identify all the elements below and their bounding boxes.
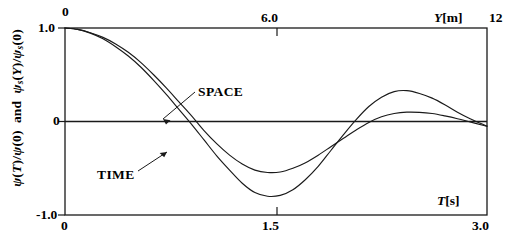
y-axis-label-text: ψ(T)/ψ(0) and ψs(Y)/ψs(0) xyxy=(9,29,25,187)
series-annotation-time: TIME xyxy=(97,167,135,183)
bottom-axis-tick-0: 0 xyxy=(61,218,68,234)
top-axis-tick-6: 6.0 xyxy=(261,10,278,26)
top-axis-tick-12: 12 xyxy=(489,10,503,26)
top-axis-tick-0: 0 xyxy=(62,4,69,20)
series-annotation-space: SPACE xyxy=(198,84,243,100)
curve-space xyxy=(65,28,487,173)
y-tick-label-minus1: -1.0 xyxy=(36,207,57,223)
y-tick-label-0: 0 xyxy=(53,113,60,129)
y-axis-label: ψ(T)/ψ(0) and ψs(Y)/ψs(0) xyxy=(5,0,29,218)
top-axis-name: Y[m] xyxy=(434,10,463,26)
y-tick-label-1: 1.0 xyxy=(38,20,55,36)
bottom-axis-tick-3p0: 3.0 xyxy=(472,218,489,234)
bottom-axis-name: T[s] xyxy=(437,193,460,209)
figure-container: ψ(T)/ψ(0) and ψs(Y)/ψs(0) 1.0 0 -1.0 0 6… xyxy=(0,0,510,241)
plot-area xyxy=(0,0,510,241)
annotation-leaders xyxy=(138,92,195,171)
axes-frame xyxy=(58,28,487,215)
bottom-axis-tick-1p5: 1.5 xyxy=(262,218,279,234)
